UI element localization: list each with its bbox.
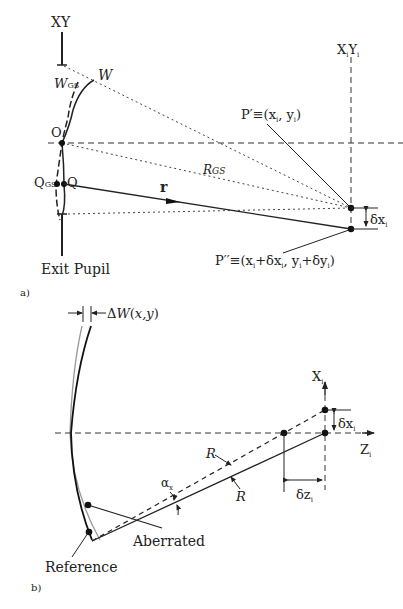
delta-x-label-b: δxi: [338, 416, 356, 433]
p-double-prime-label: P′′≡(xi+δxi, yi+δyi): [215, 253, 335, 270]
point-o: [59, 140, 65, 146]
p-prime-leader: [267, 124, 349, 206]
z-axis-label: Zi: [360, 442, 372, 459]
q-label: Q: [67, 175, 78, 190]
ray-arrow-icon: [166, 198, 180, 204]
reference-leader: [72, 533, 88, 557]
optics-diagram: XY XiYi W WGS O QGS Q r GSRGS P′≡(xi, yi: [0, 0, 403, 609]
panel-a: XY XiYi W WGS O QGS Q r GSRGS P′≡(xi, yi: [20, 14, 403, 298]
point-qgs: [54, 181, 60, 187]
panel-b-tag: b): [31, 582, 41, 593]
alpha-label: αx: [161, 476, 173, 492]
r-label-reference: R: [205, 446, 216, 461]
point-aberrated: [85, 502, 92, 509]
delta-z-label: δzi: [296, 487, 314, 504]
delta-w-label: ΔΔW(x,y)W(x,y): [107, 306, 159, 321]
delta-x-label: δxi: [370, 212, 388, 229]
qgs-label: QGS: [34, 175, 57, 190]
o-label: O: [51, 125, 62, 140]
x-axis-label: Xi: [312, 369, 324, 386]
marginal-ray-bottom: [68, 208, 351, 214]
p-double-leader: [283, 230, 349, 253]
marginal-ray-top: [64, 66, 351, 208]
reference-label: Reference: [45, 559, 117, 575]
alpha-angle-arc: [177, 505, 178, 515]
rgs-label: GSRGS: [202, 163, 225, 177]
wavefront-w: [62, 80, 94, 216]
r-label: r: [160, 179, 168, 195]
exit-pupil-label: Exit Pupil: [41, 261, 111, 277]
p-prime-label: P′≡(xi, yi): [241, 107, 301, 124]
reference-ray: [92, 410, 325, 541]
panel-a-tag: a): [20, 287, 30, 298]
panel-b: ΔΔW(x,y)W(x,y) Zi Xi δxi δzi R: [31, 306, 374, 593]
wgs-label: WGS: [54, 76, 79, 91]
w-label: W: [98, 67, 114, 83]
ray-r: [64, 184, 351, 229]
axis-xy-label: XY: [51, 14, 71, 30]
point-image-origin: [322, 430, 329, 437]
aberrated-label: Aberrated: [132, 533, 205, 549]
axis-xiyi-label: XiYi: [337, 42, 360, 59]
wavefront-wgs: [56, 82, 78, 220]
r-label-aberrated: R: [235, 489, 246, 504]
